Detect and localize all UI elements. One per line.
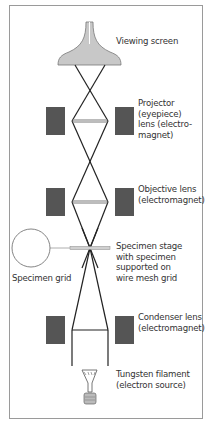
label-viewing-screen: Viewing screen [116, 36, 178, 47]
label-line: lens (electro- [138, 119, 192, 130]
label-line: (electromagnet) [138, 323, 205, 334]
label-condenser-lens: Condenser lens (electromagnet) [138, 312, 205, 333]
label-objective-lens: Objective lens (electromagnet) [138, 184, 205, 205]
label-line: wire mesh grid [116, 273, 182, 284]
specimen-grid-icon [12, 229, 50, 267]
label-specimen-grid: Specimen grid [12, 273, 71, 284]
objective-lens-bar [73, 201, 107, 204]
projector-magnet-right [115, 107, 134, 135]
diagram-frame [10, 6, 203, 419]
tem-diagram [0, 0, 211, 430]
label-line: Specimen stage [116, 241, 182, 252]
label-line: Condenser lens [138, 312, 205, 323]
label-line: (eyepiece) [138, 109, 192, 120]
label-line: with specimen [116, 252, 182, 263]
label-specimen-stage: Specimen stage with specimen supported o… [116, 241, 182, 283]
label-line: Projector [138, 98, 192, 109]
objective-magnet-left [46, 188, 65, 216]
label-line: magnet) [138, 130, 192, 141]
label-line: Tungsten filament [116, 369, 190, 380]
specimen-stage-bar [70, 247, 110, 250]
label-line: (electron source) [116, 380, 190, 391]
label-line: Objective lens [138, 184, 205, 195]
objective-magnet-right [115, 188, 134, 216]
condenser-magnet-left [46, 316, 65, 344]
projector-lens-bar [73, 120, 107, 123]
condenser-magnet-right [115, 316, 134, 344]
projector-magnet-left [46, 107, 65, 135]
label-line: supported on [116, 262, 182, 273]
label-projector-lens: Projector (eyepiece) lens (electro- magn… [138, 98, 192, 140]
label-tungsten-filament: Tungsten filament (electron source) [116, 369, 190, 390]
label-line: (electromagnet) [138, 195, 205, 206]
